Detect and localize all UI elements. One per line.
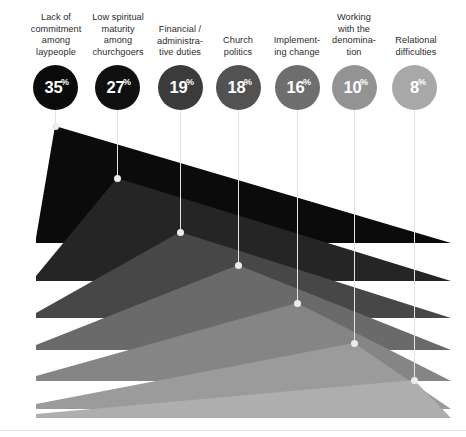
node-dot-4 (235, 262, 242, 269)
node-dot-2 (114, 175, 121, 182)
node-dot-5 (294, 300, 301, 307)
percent-sign: % (61, 77, 69, 87)
infographic-root: Lack of commitment among laypeople Low s… (0, 0, 466, 437)
percent-circle-financial-administrative-duties: 19 % (158, 65, 203, 110)
node-dot-1 (52, 123, 59, 130)
label-line: Low spiritual (70, 12, 166, 24)
percent-sign: % (360, 77, 368, 87)
percent-circle-relational-difficulties: 8 % (392, 65, 437, 110)
percent-circle-church-politics: 18 % (216, 65, 261, 110)
percent-circle-lack-of-commitment: 35 % (33, 65, 78, 110)
percent-sign: % (123, 77, 131, 87)
stem-5 (297, 110, 298, 306)
percent-sign: % (418, 77, 426, 87)
percent-circle-implementing-change: 16 % (275, 65, 320, 110)
percent-value: 27 (107, 78, 125, 97)
percent-sign: % (303, 77, 311, 87)
percent-sign: % (244, 77, 252, 87)
stem-4 (238, 110, 239, 268)
percent-circle-low-spiritual-maturity: 27 % (95, 65, 140, 110)
percent-value: 10 (344, 78, 362, 97)
stem-6 (354, 110, 355, 346)
node-dot-3 (177, 229, 184, 236)
percent-value: 18 (228, 78, 246, 97)
label-line: Working (310, 12, 398, 24)
stem-7 (414, 110, 415, 383)
label-line: Financial / (134, 24, 226, 36)
label-relational-difficulties: Relational difficulties (370, 35, 462, 58)
stem-3 (180, 110, 181, 235)
stem-2 (117, 110, 118, 181)
node-dot-6 (351, 340, 358, 347)
label-line: difficulties (370, 47, 462, 59)
percent-sign: % (186, 77, 194, 87)
label-line: Relational (370, 35, 462, 47)
percent-value: 35 (45, 78, 63, 97)
percent-circle-working-with-the-denomination: 10 % (332, 65, 377, 110)
label-line: with the (310, 24, 398, 36)
node-dot-7 (411, 377, 418, 384)
footer-divider (0, 430, 466, 431)
percent-value: 19 (170, 78, 188, 97)
percent-value: 16 (287, 78, 305, 97)
